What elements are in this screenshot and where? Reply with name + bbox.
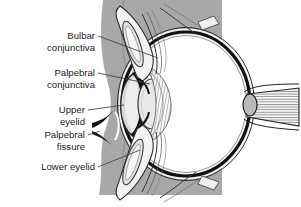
label-palpebral-fissure-line2: fissure — [57, 141, 85, 152]
label-palpebral-conjunctiva-line2: conjunctiva — [47, 79, 96, 90]
label-palpebral-conjunctiva: Palpebral conjunctiva — [47, 67, 96, 90]
label-upper-eyelid-line2: eyelid — [60, 116, 85, 127]
label-palpebral-fissure-line1: Palpebral — [44, 129, 85, 140]
label-palpebral-conjunctiva-line1: Palpebral — [54, 67, 95, 78]
label-bulbar-conjunctiva-line1: Bulbar — [67, 30, 96, 41]
label-bulbar-conjunctiva-line2: conjunctiva — [47, 42, 96, 53]
eye-anatomy-diagram: Bulbar conjunctiva Palpebral conjunctiva… — [0, 0, 301, 207]
label-upper-eyelid-line1: Upper — [59, 104, 86, 115]
label-lower-eyelid-line1: Lower eyelid — [41, 161, 95, 172]
label-lower-eyelid: Lower eyelid — [41, 161, 95, 172]
label-upper-eyelid: Upper eyelid — [59, 104, 86, 127]
optic-disc — [243, 94, 257, 116]
